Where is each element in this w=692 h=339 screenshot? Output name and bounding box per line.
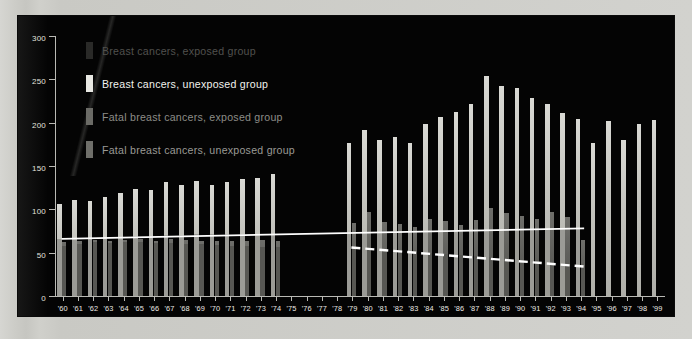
bar-fatal-breast-cancers-exposed: [347, 232, 352, 296]
bar-breast-cancers-exposed: [591, 143, 596, 296]
x-tick: [246, 296, 247, 301]
legend-swatch-icon: [86, 75, 93, 92]
bar-fatal-breast-cancers-exposed: [484, 230, 489, 296]
x-tick-label: '61: [73, 304, 83, 313]
y-tick-label: 0: [18, 287, 46, 305]
x-tick-label: '94: [576, 304, 586, 313]
legend-item-1[interactable]: Breast cancers, exposed group: [86, 34, 416, 67]
x-tick-label: '62: [88, 304, 98, 313]
x-tick: [535, 296, 536, 301]
bar-breast-cancers-exposed: [637, 124, 642, 296]
bar-fatal-breast-cancers-exposed: [408, 231, 413, 296]
bar-fatal-breast-cancers-unexposed: [62, 246, 66, 296]
x-tick: [230, 296, 231, 301]
x-tick-label: '75: [286, 304, 296, 313]
legend-swatch-icon: [86, 108, 93, 125]
x-tick: [352, 296, 353, 301]
y-tick: [49, 296, 55, 297]
x-tick-label: '96: [607, 304, 617, 313]
x-tick-label: '60: [58, 304, 68, 313]
bar-fatal-breast-cancers-exposed: [194, 234, 199, 296]
x-tick: [261, 296, 262, 301]
bar-fatal-breast-cancers-unexposed: [169, 243, 173, 296]
y-tick-label: 50: [18, 244, 46, 262]
bar-fatal-breast-cancers-exposed: [545, 229, 550, 296]
x-tick-label: '85: [439, 304, 449, 313]
bar-fatal-breast-cancers-unexposed: [184, 244, 188, 296]
x-tick-label: '88: [485, 304, 495, 313]
x-tick: [444, 296, 445, 301]
bar-fatal-breast-cancers-unexposed: [230, 246, 234, 296]
bar-fatal-breast-cancers-exposed: [225, 234, 230, 296]
bar-fatal-breast-cancers-unexposed: [77, 244, 81, 296]
x-tick-label: '64: [119, 304, 129, 313]
bar-fatal-breast-cancers-exposed: [499, 230, 504, 296]
x-tick: [215, 296, 216, 301]
x-tick: [307, 296, 308, 301]
bar-fatal-breast-cancers-unexposed: [352, 248, 356, 296]
x-tick: [520, 296, 521, 301]
legend-item-4[interactable]: Fatal breast cancers, unexposed group: [86, 133, 416, 166]
y-tick-label: 300: [18, 27, 46, 45]
bar-fatal-breast-cancers-exposed: [560, 229, 565, 296]
bar-fatal-breast-cancers-unexposed: [581, 266, 585, 296]
legend: Breast cancers, exposed groupBreast canc…: [86, 34, 416, 166]
bar-fatal-breast-cancers-exposed: [515, 229, 520, 296]
bar-fatal-breast-cancers-unexposed: [398, 251, 402, 296]
legend-label: Breast cancers, exposed group: [102, 45, 256, 57]
bar-fatal-breast-cancers-exposed: [149, 236, 154, 296]
bar-fatal-breast-cancers-exposed: [362, 232, 367, 296]
bar-fatal-breast-cancers-exposed: [103, 238, 108, 296]
x-tick: [474, 296, 475, 301]
x-tick: [108, 296, 109, 301]
bar-fatal-breast-cancers-unexposed: [93, 242, 97, 296]
x-tick-label: '76: [302, 304, 312, 313]
bar-fatal-breast-cancers-exposed: [377, 232, 382, 296]
x-tick-label: '82: [393, 304, 403, 313]
bar-fatal-breast-cancers-exposed: [240, 234, 245, 296]
bar-fatal-breast-cancers-exposed: [576, 228, 581, 296]
bar-fatal-breast-cancers-unexposed: [367, 249, 371, 296]
legend-label: Fatal breast cancers, exposed group: [102, 111, 283, 123]
x-tick: [368, 296, 369, 301]
bar-fatal-breast-cancers-unexposed: [215, 245, 219, 296]
y-tick-label-text: 200: [32, 121, 46, 130]
x-tick: [139, 296, 140, 301]
legend-item-2[interactable]: Breast cancers, unexposed group: [86, 67, 416, 100]
bar-fatal-breast-cancers-unexposed: [382, 250, 386, 296]
x-tick-label: '77: [317, 304, 327, 313]
x-tick: [169, 296, 170, 301]
legend-item-3[interactable]: Fatal breast cancers, exposed group: [86, 100, 416, 133]
x-tick: [657, 296, 658, 301]
y-tick-label-text: 100: [32, 207, 46, 216]
bar-fatal-breast-cancers-unexposed: [565, 264, 569, 296]
x-tick-label: '65: [134, 304, 144, 313]
x-tick-label: '97: [622, 304, 632, 313]
bar-fatal-breast-cancers-unexposed: [154, 243, 158, 296]
bar-fatal-breast-cancers-unexposed: [245, 246, 249, 296]
x-tick: [398, 296, 399, 301]
x-tick: [581, 296, 582, 301]
y-tick-label: 200: [18, 114, 46, 132]
bar-fatal-breast-cancers-exposed: [271, 234, 276, 296]
x-tick: [200, 296, 201, 301]
x-tick: [124, 296, 125, 301]
x-tick-label: '87: [469, 304, 479, 313]
bar-fatal-breast-cancers-unexposed: [108, 243, 112, 296]
x-tick: [78, 296, 79, 301]
bar-breast-cancers-exposed: [652, 120, 657, 296]
x-tick: [429, 296, 430, 301]
x-tick: [612, 296, 613, 301]
bar-fatal-breast-cancers-unexposed: [535, 260, 539, 296]
bar-fatal-breast-cancers-unexposed: [138, 242, 142, 296]
bar-fatal-breast-cancers-exposed: [164, 235, 169, 296]
bar-fatal-breast-cancers-exposed: [72, 238, 77, 296]
bar-fatal-breast-cancers-unexposed: [474, 256, 478, 296]
y-tick-label-text: 250: [32, 77, 46, 86]
x-axis-line: [55, 296, 665, 297]
bar-fatal-breast-cancers-exposed: [469, 230, 474, 296]
x-tick-label: '98: [637, 304, 647, 313]
x-tick: [63, 296, 64, 301]
x-tick-label: '90: [515, 304, 525, 313]
x-tick: [337, 296, 338, 301]
